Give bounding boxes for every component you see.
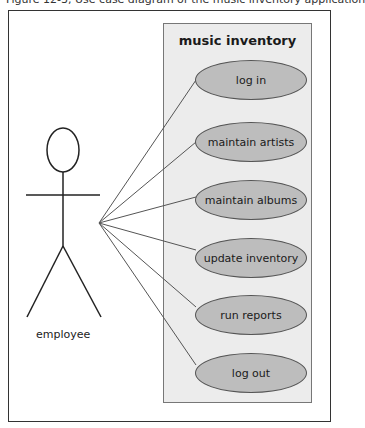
association-maintain-artists [99, 142, 196, 223]
actor-label: employee [36, 328, 90, 341]
actor-right-leg-icon [63, 246, 101, 317]
usecase-log-out: log out [195, 353, 307, 393]
actor-left-leg-icon [27, 246, 63, 317]
association-log-in [99, 80, 196, 223]
usecase-maintain-albums: maintain albums [195, 180, 307, 220]
usecase-maintain-artists: maintain artists [195, 122, 307, 162]
association-update-inventory [99, 223, 196, 250]
usecase-update-inventory: update inventory [195, 238, 307, 278]
usecase-log-in: log in [195, 60, 307, 100]
usecase-run-reports: run reports [195, 295, 307, 335]
actor-head-icon [47, 128, 79, 172]
